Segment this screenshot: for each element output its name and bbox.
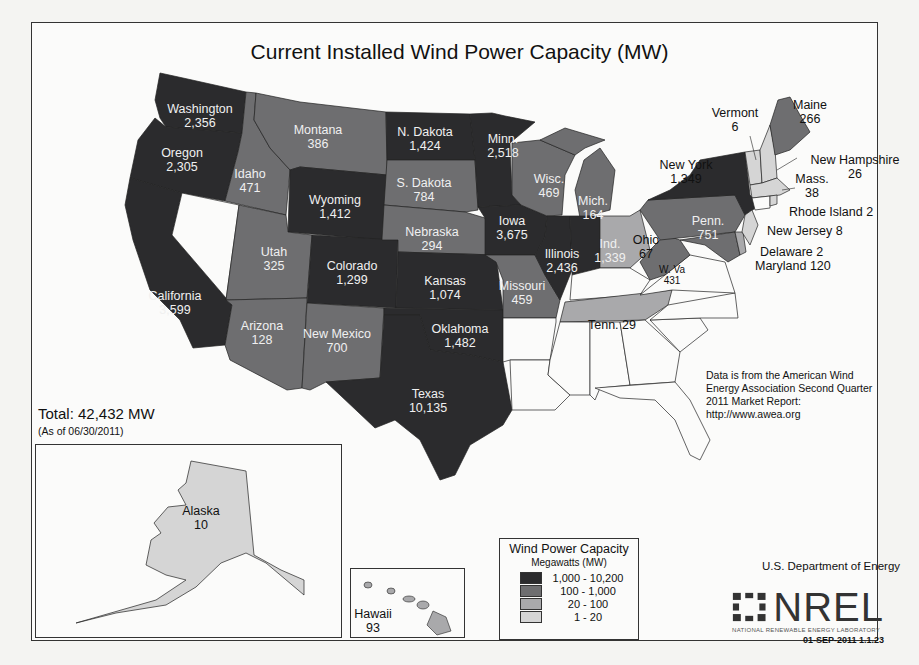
svg-text:Vermont6: Vermont6	[712, 106, 759, 134]
svg-text:Kansas1,074: Kansas1,074	[424, 274, 466, 302]
nrel-sun-icon	[732, 590, 767, 624]
hawaii-inset: Hawaii93	[350, 568, 465, 638]
legend-swatch	[520, 611, 542, 623]
svg-text:Delaware 2: Delaware 2	[760, 245, 823, 259]
source-link[interactable]: http://www.awea.org	[706, 408, 876, 421]
legend: Wind Power Capacity Megawatts (MW) 1,000…	[499, 538, 639, 640]
svg-text:Mass.38: Mass.38	[795, 172, 828, 200]
state-alaska[interactable]	[76, 461, 304, 623]
version-stamp: 01-SEP-2011 1.1.23	[732, 635, 884, 645]
total-capacity: Total: 42,432 MW	[38, 405, 155, 422]
svg-text:Utah325: Utah325	[261, 245, 287, 273]
svg-text:Illinois2,436: Illinois2,436	[545, 247, 580, 275]
svg-text:Tenn. 29: Tenn. 29	[588, 318, 636, 332]
svg-text:Rhode Island 2: Rhode Island 2	[789, 205, 873, 219]
svg-text:Minn.2,518: Minn.2,518	[487, 132, 518, 160]
legend-item: 20 - 100	[520, 597, 638, 610]
legend-swatch	[520, 585, 542, 597]
legend-title: Wind Power Capacity	[500, 542, 638, 556]
legend-swatch	[520, 572, 542, 584]
legend-item: 100 - 1,000	[520, 584, 638, 597]
svg-text:Iowa3,675: Iowa3,675	[496, 214, 527, 242]
state-florida[interactable]	[595, 382, 710, 460]
legend-item: 1 - 20	[520, 610, 638, 623]
as-of-date: (As of 06/30/2011)	[38, 425, 124, 437]
legend-swatch	[520, 598, 542, 610]
svg-text:New Jersey 8: New Jersey 8	[767, 224, 843, 238]
svg-text:Oregon2,305: Oregon2,305	[161, 146, 203, 174]
svg-text:Maryland 120: Maryland 120	[755, 259, 831, 273]
legend-item: 1,000 - 10,200	[520, 571, 638, 584]
state-connecticut[interactable]	[752, 196, 770, 210]
state-rhode-island[interactable]	[770, 195, 777, 206]
source-note: Data is from the American Wind Energy As…	[706, 369, 876, 421]
svg-text:Texas10,135: Texas10,135	[409, 387, 447, 415]
svg-text:Hawaii93: Hawaii93	[354, 607, 392, 635]
island-big-island[interactable]	[427, 611, 451, 635]
state-arkansas[interactable]	[503, 318, 556, 362]
nrel-logo: NREL NATIONAL RENEWABLE ENERGY LABORATOR…	[732, 589, 884, 645]
legend-subtitle: Megawatts (MW)	[500, 557, 638, 568]
agency-label: U.S. Department of Energy	[762, 560, 900, 572]
alaska-inset: Alaska10	[35, 444, 342, 638]
